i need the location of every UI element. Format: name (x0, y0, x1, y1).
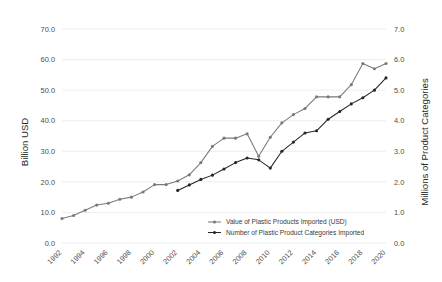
y-axis-right-tick: 3.0 (394, 147, 404, 156)
data-point (176, 189, 179, 192)
data-point (130, 196, 133, 199)
x-axis-tick: 2014 (300, 248, 318, 266)
y-axis-left-tick: 70.0 (41, 25, 55, 34)
legend-marker-icon (213, 231, 216, 234)
y-axis-left-tick: 60.0 (41, 55, 55, 64)
y-axis-right-title: Millions of Product Categories (419, 78, 430, 206)
x-axis-tick: 2010 (254, 248, 272, 266)
x-axis-tick: 1996 (92, 248, 110, 266)
data-point (234, 137, 237, 140)
x-axis-tick: 2006 (207, 248, 225, 266)
data-point (384, 62, 387, 65)
x-axis-tick: 2012 (277, 248, 295, 266)
data-point (257, 155, 260, 158)
data-point (72, 214, 75, 217)
data-point (246, 156, 249, 159)
y-axis-left-title: Billion USD (19, 118, 30, 167)
x-axis-tick: 1998 (115, 248, 133, 266)
data-point (292, 113, 295, 116)
data-point (269, 136, 272, 139)
data-point (188, 173, 191, 176)
data-point (107, 202, 110, 205)
data-point (327, 118, 330, 121)
data-point (327, 95, 330, 98)
gridlines-group (62, 29, 386, 243)
data-point (269, 167, 272, 170)
y-axis-right-tick: 5.0 (394, 86, 404, 95)
legend-item-label: Value of Plastic Products Imported (USD) (226, 218, 347, 226)
data-point (338, 95, 341, 98)
y-axis-right-tick: 6.0 (394, 55, 404, 64)
data-point (257, 158, 260, 161)
data-point (176, 179, 179, 182)
x-axis-tick: 2020 (369, 248, 387, 266)
data-point (361, 96, 364, 99)
x-axis-tick: 2004 (184, 248, 202, 266)
data-point (188, 183, 191, 186)
data-point (292, 141, 295, 144)
y-axis-left-tick: 0.0 (45, 239, 55, 248)
legend-item-label: Number of Plastic Product Categories Imp… (226, 229, 364, 237)
y-axis-right-tick: 1.0 (394, 208, 404, 217)
y-axis-left-tick: 30.0 (41, 147, 55, 156)
data-point (141, 190, 144, 193)
y-axis-right-tick-labels: 0.01.02.03.04.05.06.07.0 (394, 25, 404, 248)
x-axis-tick-labels: 1992199419961998200020022004200620082010… (45, 248, 387, 266)
y-axis-left-tick: 50.0 (41, 86, 55, 95)
series-line (62, 64, 386, 219)
data-point (211, 174, 214, 177)
y-axis-right-tick: 7.0 (394, 25, 404, 34)
y-axis-right-tick: 2.0 (394, 178, 404, 187)
data-point (211, 145, 214, 148)
x-axis-tick: 2002 (161, 248, 179, 266)
data-point (199, 161, 202, 164)
legend-marker-icon (213, 220, 216, 223)
x-axis-tick: 1992 (45, 248, 63, 266)
data-point (373, 89, 376, 92)
y-axis-right-tick: 4.0 (394, 116, 404, 125)
data-point (118, 198, 121, 201)
line-chart: 0.010.020.030.040.050.060.070.0 0.01.02.… (0, 0, 442, 282)
data-point (222, 137, 225, 140)
data-point (280, 150, 283, 153)
data-point (60, 217, 63, 220)
data-point (338, 110, 341, 113)
x-axis-tick: 2016 (323, 248, 341, 266)
data-series-group (60, 62, 387, 220)
data-point (303, 131, 306, 134)
y-axis-left-tick-labels: 0.010.020.030.040.050.060.070.0 (41, 25, 55, 248)
data-point (246, 132, 249, 135)
data-point (350, 102, 353, 105)
data-point (280, 121, 283, 124)
data-point (234, 161, 237, 164)
data-point (361, 62, 364, 65)
data-point (199, 178, 202, 181)
data-point (165, 183, 168, 186)
x-axis-tick: 1994 (69, 248, 87, 266)
x-axis-tick: 2008 (231, 248, 249, 266)
data-point (315, 95, 318, 98)
y-axis-left-tick: 20.0 (41, 178, 55, 187)
x-axis-tick: 2000 (138, 248, 156, 266)
data-point (222, 167, 225, 170)
data-point (84, 209, 87, 212)
chart-legend: Value of Plastic Products Imported (USD)… (208, 218, 364, 237)
y-axis-left-tick: 10.0 (41, 208, 55, 217)
x-axis-tick: 2018 (346, 248, 364, 266)
y-axis-left-tick: 40.0 (41, 116, 55, 125)
data-point (95, 204, 98, 207)
data-point (373, 67, 376, 70)
y-axis-right-tick: 0.0 (394, 239, 404, 248)
data-point (315, 129, 318, 132)
data-point (384, 76, 387, 79)
data-point (153, 183, 156, 186)
data-point (350, 83, 353, 86)
data-point (303, 107, 306, 110)
series-line (178, 78, 386, 191)
chart-container: 0.010.020.030.040.050.060.070.0 0.01.02.… (0, 0, 442, 282)
